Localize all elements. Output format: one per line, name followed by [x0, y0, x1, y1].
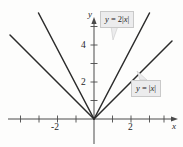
y-tick-label-2: 2: [81, 77, 86, 87]
y-tick-label-4: 4: [81, 40, 86, 50]
equation-callout-abs-x: y = |x|: [131, 80, 161, 97]
x-tick-label-2: 2: [128, 122, 133, 132]
callout-2x-equals: =: [109, 14, 118, 24]
callout-x-equals: =: [140, 83, 149, 93]
callout-x-abs-close: |: [154, 83, 156, 93]
y-axis: [91, 17, 98, 144]
y-axis-label: y: [88, 9, 92, 19]
x-tick-label-neg2: -2: [51, 122, 59, 132]
x-axis-label: x: [172, 121, 176, 131]
curve-y-equals-abs-x: [10, 35, 172, 119]
coordinate-plane: [0, 0, 183, 147]
callout-2x-abs-close: |: [128, 14, 130, 24]
graph-figure: y x -2 2 2 4 y = 2|x| y = |x|: [0, 0, 183, 147]
equation-callout-2-abs-x: y = 2|x|: [100, 11, 134, 28]
